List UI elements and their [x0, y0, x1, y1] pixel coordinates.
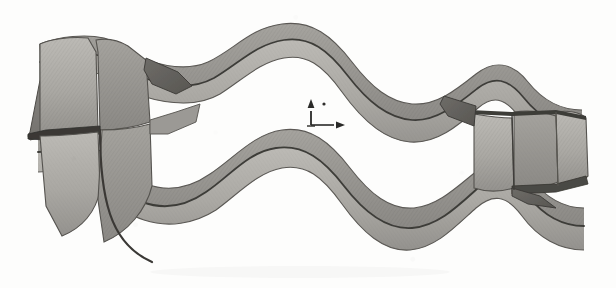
right-plate-inner-hatch: [474, 114, 514, 191]
axis-dot: [322, 102, 325, 105]
left-plate-front-hatch: [40, 37, 98, 134]
ribbon-surface-drawing: [0, 0, 616, 288]
right-plate-outer-hatch: [556, 111, 588, 186]
contact-shadow: [150, 266, 450, 278]
figure-container: [0, 0, 616, 288]
right-plate-middle-hatch: [514, 111, 558, 189]
